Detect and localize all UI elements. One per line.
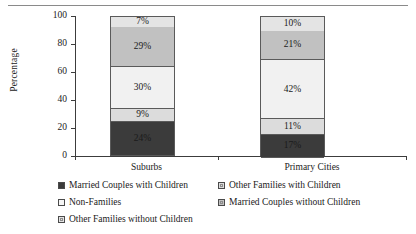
- y-tick-label: 80: [39, 39, 67, 49]
- bar-segment[interactable]: 29%: [111, 27, 174, 68]
- legend-label: Married Couples without Children: [229, 197, 360, 208]
- legend-label: Non-Families: [69, 197, 121, 208]
- legend-label: Other Families with Children: [229, 180, 341, 191]
- legend-swatch: [58, 216, 65, 223]
- x-tick-mark: [218, 156, 219, 160]
- y-tick-label: 20: [39, 123, 67, 133]
- bar-segment[interactable]: 24%: [111, 122, 174, 156]
- bar-segment[interactable]: 30%: [111, 67, 174, 109]
- bar-segment-label: 29%: [134, 42, 151, 52]
- y-tick-mark: [71, 16, 75, 17]
- legend-item[interactable]: Married Couples without Children: [218, 197, 360, 208]
- y-tick-label: 40: [39, 95, 67, 105]
- chart-legend: Married Couples with ChildrenOther Famil…: [0, 180, 416, 234]
- legend-swatch: [58, 182, 65, 189]
- x-category-label: Suburbs: [75, 161, 218, 173]
- bar-segment-label: 11%: [284, 122, 301, 132]
- y-tick-label: 0: [39, 151, 67, 161]
- bar-segment[interactable]: 42%: [261, 60, 324, 119]
- y-tick-label: 60: [39, 67, 67, 77]
- bar-segment-label: 42%: [284, 85, 301, 95]
- bar-segment[interactable]: 21%: [261, 31, 324, 60]
- bar-segment-label: 24%: [134, 134, 151, 144]
- bar-segment-label: 21%: [284, 40, 301, 50]
- bar-segment[interactable]: 11%: [261, 119, 324, 134]
- chart-plot-area: Percentage 020406080100 SuburbsPrimary C…: [0, 0, 416, 175]
- bar-segment-label: 7%: [136, 17, 149, 27]
- y-tick-mark: [71, 100, 75, 101]
- x-tick-mark: [406, 156, 407, 160]
- bar-segment-label: 17%: [284, 141, 301, 151]
- y-tick-mark: [71, 72, 75, 73]
- stacked-bar[interactable]: 7%29%30%9%24%: [110, 16, 175, 156]
- x-category-label: Primary Cities: [218, 161, 406, 173]
- y-tick-mark: [71, 44, 75, 45]
- legend-swatch: [58, 199, 65, 206]
- bar-segment-label: 9%: [136, 110, 149, 120]
- y-axis-line: [75, 16, 76, 156]
- legend-item[interactable]: Married Couples with Children: [58, 180, 188, 191]
- bar-segment-label: 10%: [284, 19, 301, 29]
- legend-swatch: [218, 199, 225, 206]
- bar-segment[interactable]: 17%: [261, 135, 324, 159]
- x-tick-mark: [75, 156, 76, 160]
- legend-label: Other Families without Children: [69, 214, 193, 225]
- legend-swatch: [218, 182, 225, 189]
- stacked-bar[interactable]: 10%21%42%11%17%: [260, 16, 325, 156]
- legend-label: Married Couples with Children: [69, 180, 188, 191]
- y-axis-title: Percentage: [9, 25, 23, 115]
- bar-segment[interactable]: 9%: [111, 109, 174, 122]
- bar-segment[interactable]: 7%: [111, 17, 174, 27]
- bar-segment-label: 30%: [134, 83, 151, 93]
- x-axis-line: [75, 156, 406, 157]
- bar-segment[interactable]: 10%: [261, 17, 324, 31]
- y-tick-mark: [71, 128, 75, 129]
- legend-item[interactable]: Non-Families: [58, 197, 121, 208]
- y-tick-label: 100: [39, 11, 67, 21]
- legend-item[interactable]: Other Families without Children: [58, 214, 193, 225]
- legend-item[interactable]: Other Families with Children: [218, 180, 341, 191]
